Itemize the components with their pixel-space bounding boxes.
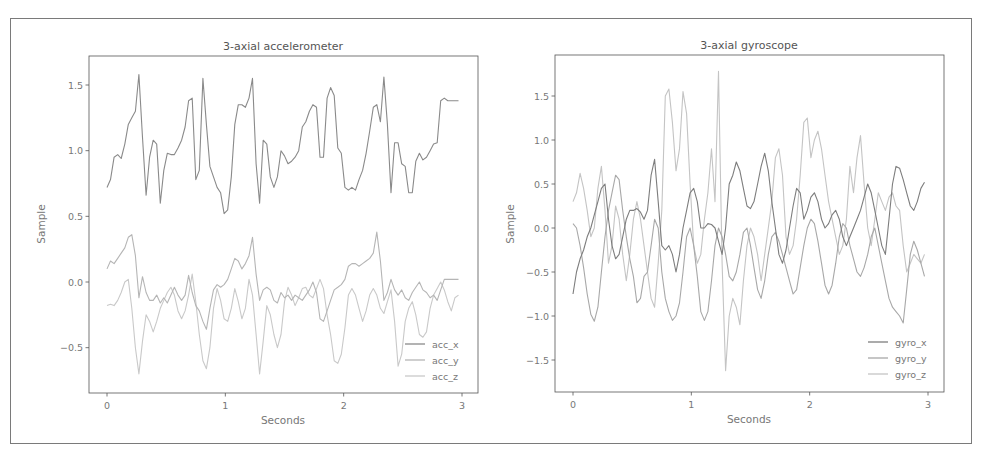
x-tick-label: 2 — [807, 399, 813, 410]
chart-title: 3-axial accelerometer — [223, 40, 344, 53]
legend-label: acc_x — [432, 339, 459, 350]
y-tick-label: −0.5 — [526, 267, 549, 278]
x-axis-label: Seconds — [727, 413, 771, 425]
legend-label: acc_y — [432, 355, 459, 366]
legend-label: gyro_z — [895, 369, 926, 380]
x-tick-label: 1 — [688, 399, 694, 410]
chart-accelerometer: 3-axial accelerometer 1.51.00.50.0−0.5 0… — [35, 40, 478, 426]
legend-label: acc_z — [432, 371, 458, 382]
x-tick-label: 3 — [459, 400, 465, 411]
legend-label: gyro_y — [895, 353, 927, 364]
y-tick-label: −0.5 — [60, 342, 83, 353]
y-tick-label: 0.0 — [534, 223, 549, 234]
y-tick-label: 0.0 — [68, 277, 83, 288]
x-axis-label: Seconds — [261, 414, 305, 426]
x-axis-ticks: 0123 — [104, 393, 465, 411]
y-tick-label: −1.5 — [526, 355, 549, 366]
x-tick-label: 1 — [222, 400, 228, 411]
x-tick-label: 0 — [104, 400, 110, 411]
chart-title: 3-axial gyroscope — [700, 39, 798, 52]
chart-gyroscope: 3-axial gyroscope 1.51.00.50.0−0.5−1.0−1… — [504, 39, 944, 425]
y-tick-label: 1.0 — [534, 135, 549, 146]
y-tick-label: 1.0 — [68, 145, 83, 156]
legend-label: gyro_x — [895, 337, 927, 348]
x-axis-ticks: 0123 — [570, 392, 931, 410]
y-axis-ticks: 1.51.00.50.0−0.5−1.0−1.5 — [526, 91, 555, 366]
y-tick-label: −1.0 — [526, 311, 549, 322]
plot-area — [89, 56, 478, 393]
y-tick-label: 1.5 — [534, 91, 549, 102]
x-tick-label: 0 — [570, 399, 576, 410]
y-tick-label: 0.5 — [534, 179, 549, 190]
y-tick-label: 1.5 — [68, 80, 83, 91]
x-tick-label: 2 — [341, 400, 347, 411]
y-axis-ticks: 1.51.00.50.0−0.5 — [60, 80, 89, 354]
y-axis-label: Sample — [35, 204, 47, 243]
figure-canvas: 3-axial accelerometer 1.51.00.50.0−0.5 0… — [0, 0, 987, 452]
x-tick-label: 3 — [925, 399, 931, 410]
y-axis-label: Sample — [504, 204, 516, 243]
y-tick-label: 0.5 — [68, 211, 83, 222]
